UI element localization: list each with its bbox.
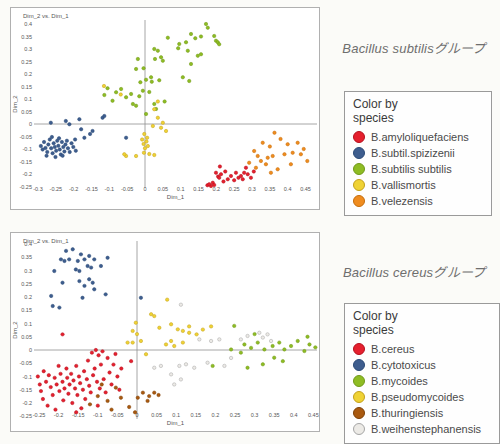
data-point <box>159 56 162 59</box>
data-point <box>229 174 232 177</box>
y-tick-label: -0.1 <box>23 146 32 152</box>
data-point <box>71 401 74 404</box>
legend-entry-label: B.subtil.spizizenii <box>371 147 455 159</box>
data-point <box>271 344 274 347</box>
y-axis-label: Dim_2 <box>12 321 18 339</box>
data-point <box>54 155 57 158</box>
data-point <box>53 269 56 272</box>
legend-entry: B.amyloliquefaciens <box>353 129 483 145</box>
data-point <box>243 343 246 346</box>
legend-entry-label: B.cytotoxicus <box>371 359 436 371</box>
x-tick-label: -0.15 <box>85 186 98 192</box>
legend-color-dot-icon <box>353 391 365 403</box>
data-point <box>90 351 93 354</box>
data-point <box>169 323 172 326</box>
data-point <box>123 153 126 156</box>
data-point <box>283 153 286 156</box>
data-point <box>156 116 159 119</box>
legend-color-dot-icon <box>353 359 365 371</box>
data-point <box>120 367 123 370</box>
legend-color-dot-icon <box>353 131 365 143</box>
data-point <box>173 383 176 386</box>
legend-color-dot-icon <box>353 163 365 175</box>
legend-color-dot-icon <box>353 375 365 387</box>
data-point <box>54 149 57 152</box>
data-point <box>134 154 137 157</box>
data-point <box>239 174 242 177</box>
data-point <box>150 80 153 83</box>
data-point <box>129 92 132 95</box>
data-point <box>261 363 264 366</box>
data-point <box>89 391 92 394</box>
x-tick-label: -0.05 <box>111 412 124 418</box>
legend-color-dot-icon <box>353 407 365 419</box>
data-point <box>93 258 96 261</box>
data-point <box>247 161 250 164</box>
data-point <box>299 153 302 156</box>
data-point <box>68 123 71 126</box>
data-point <box>135 332 138 335</box>
data-point <box>151 124 154 127</box>
data-point <box>164 129 167 132</box>
data-point <box>94 348 97 351</box>
data-point <box>102 377 105 380</box>
data-point <box>63 387 66 390</box>
data-point <box>61 333 64 336</box>
data-point <box>195 333 198 336</box>
data-point <box>91 373 94 376</box>
data-point <box>72 145 75 148</box>
data-point <box>178 42 181 45</box>
legend-color-dot-icon <box>353 147 365 159</box>
data-point <box>169 373 172 376</box>
data-point <box>187 331 190 334</box>
data-point <box>78 118 81 121</box>
data-point <box>149 76 152 79</box>
data-point <box>181 76 184 79</box>
data-point <box>51 304 54 307</box>
legend-entry-label: B.weihenstephanensis <box>371 423 481 435</box>
data-point <box>119 87 122 90</box>
data-point <box>110 408 113 411</box>
data-point <box>289 344 292 347</box>
data-point <box>70 142 73 145</box>
x-tick-label: 0.35 <box>269 412 280 418</box>
data-point <box>306 335 309 338</box>
x-tick-label: 0.3 <box>248 186 256 192</box>
y-tick-label: 0.05 <box>21 334 32 340</box>
data-point <box>149 313 152 316</box>
data-point <box>224 170 227 173</box>
y-tick-label: 0.3 <box>24 46 32 52</box>
y-tick-label: 0.1 <box>24 96 32 102</box>
legend-entry: B.vallismortis <box>353 177 483 193</box>
data-point <box>199 35 202 38</box>
data-point <box>76 393 79 396</box>
data-point <box>78 269 81 272</box>
data-point <box>261 336 264 339</box>
data-point <box>106 399 109 402</box>
x-tick-label: 0 <box>143 186 146 192</box>
x-tick-label: 0.25 <box>230 412 241 418</box>
data-point <box>83 258 86 261</box>
data-point <box>156 100 159 103</box>
data-point <box>145 140 148 143</box>
legend-entry-label: B.pseudomycoides <box>371 391 464 403</box>
x-tick-label: 0.35 <box>264 186 275 192</box>
data-point <box>74 149 77 152</box>
data-point <box>47 143 50 146</box>
data-point <box>146 144 149 147</box>
legend-entry: B.subtilis subtilis <box>353 161 483 177</box>
data-point <box>296 141 299 144</box>
data-point <box>93 288 96 291</box>
data-point <box>65 367 68 370</box>
data-point <box>79 253 82 256</box>
x-tick-label: -0.1 <box>105 186 114 192</box>
data-point <box>78 381 81 384</box>
data-point <box>142 67 145 70</box>
series-b-pseudomycoides <box>126 298 213 356</box>
data-point <box>156 49 159 52</box>
data-point <box>308 343 311 346</box>
data-point <box>108 371 111 374</box>
data-point <box>158 79 161 82</box>
data-point <box>39 144 42 147</box>
data-point <box>42 370 45 373</box>
